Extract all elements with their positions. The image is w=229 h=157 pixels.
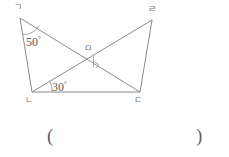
angle-value-30: 30 <box>52 80 64 94</box>
vertex-label-rieul: ㄹ <box>148 5 156 14</box>
degree-symbol-30: ° <box>64 80 67 88</box>
segment-giyeok-digeut <box>20 18 140 92</box>
segment-rieul-digeut <box>140 20 152 92</box>
geometry-figure: ㄱ ㄹ ㄴ ㄷ ㅁ 50° 30° <box>0 0 229 157</box>
answer-close-paren: ) <box>196 126 202 145</box>
vertex-label-nieun: ㄴ <box>25 96 33 105</box>
angle-value-50: 50 <box>26 35 38 49</box>
vertex-label-mieum: ㅁ <box>84 44 92 53</box>
angle-label-30: 30° <box>52 78 67 93</box>
vertex-label-digeut: ㄷ <box>134 96 142 105</box>
segment-giyeok-nieun <box>20 18 32 92</box>
vertex-label-giyeok: ㄱ <box>14 3 22 12</box>
answer-open-paren: ( <box>47 126 53 145</box>
figure-canvas <box>0 0 229 157</box>
degree-symbol-50: ° <box>38 35 41 43</box>
angle-label-50: 50° <box>26 33 41 48</box>
